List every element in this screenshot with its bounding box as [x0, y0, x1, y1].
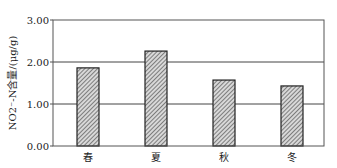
bar-chart: 0.001.002.003.00 春夏秋冬 NO2⁻-N含量/(μg/g): [0, 0, 337, 168]
bar-1: [77, 68, 99, 146]
y-tick-label: 1.00: [27, 99, 49, 110]
chart: 0.001.002.003.00 春夏秋冬 NO2⁻-N含量/(μg/g): [0, 0, 337, 168]
y-tick-label: 0.00: [27, 141, 49, 152]
svg-text:NO2⁻-N含量/(μg/g): NO2⁻-N含量/(μg/g): [6, 36, 18, 131]
bars: [77, 51, 303, 146]
y-axis-ticks: 0.001.002.003.00: [27, 15, 53, 152]
x-axis-ticks: 春夏秋冬: [83, 151, 297, 163]
y-tick-label: 2.00: [27, 57, 49, 68]
bar-4: [281, 86, 303, 146]
x-tick-label: 夏: [151, 152, 161, 163]
bar-2: [145, 51, 167, 146]
x-tick-label: 春: [83, 152, 93, 163]
y-tick-label: 3.00: [27, 15, 49, 26]
bar-3: [213, 80, 235, 146]
y-axis-label: NO2⁻-N含量/(μg/g): [6, 36, 18, 131]
x-tick-label: 冬: [287, 151, 297, 163]
x-tick-label: 秋: [219, 151, 229, 163]
